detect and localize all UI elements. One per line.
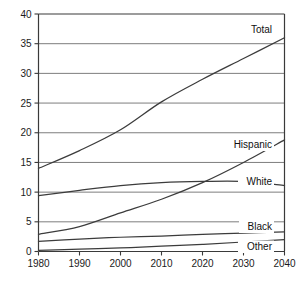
x-axis-label-1980: 1980 (27, 258, 50, 269)
y-axis-label-5: 5 (26, 216, 32, 227)
series-label-hispanic: Hispanic (234, 139, 272, 150)
series-label-total: Total (251, 24, 272, 35)
y-axis-label-30: 30 (20, 68, 32, 79)
x-axis-label-2000: 2000 (109, 258, 132, 269)
y-axis-label-10: 10 (20, 187, 32, 198)
chart-container: 0510152025303540 19801990200020102020203… (0, 0, 299, 285)
x-axis-label-2020: 2020 (191, 258, 214, 269)
x-axis-label-2010: 2010 (150, 258, 173, 269)
x-axis-label-2030: 2030 (232, 258, 255, 269)
y-axis-label-35: 35 (20, 38, 32, 49)
y-axis-label-20: 20 (20, 127, 32, 138)
series-label-black: Black (248, 221, 273, 232)
x-axis-label-2040: 2040 (273, 258, 296, 269)
y-axis-label-40: 40 (20, 9, 32, 20)
line-chart: 0510152025303540 19801990200020102020203… (0, 0, 299, 285)
y-axis-label-25: 25 (20, 98, 32, 109)
y-axis-label-15: 15 (20, 157, 32, 168)
series-label-white: White (246, 176, 272, 187)
x-axis-label-1990: 1990 (68, 258, 91, 269)
series-label-other: Other (247, 241, 273, 252)
y-axis-label-0: 0 (26, 246, 32, 257)
